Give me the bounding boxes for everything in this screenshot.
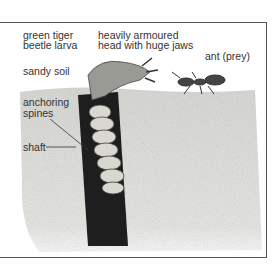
soil-label: sandy soil <box>23 66 70 77</box>
shaft-label: shaft <box>23 142 46 153</box>
spines-label-2: spines <box>23 108 53 119</box>
spines-label-1: anchoring <box>23 97 69 108</box>
ant <box>172 72 225 94</box>
larva-label-2: beetle larva <box>23 40 77 51</box>
head-label-2: head with huge jaws <box>98 40 193 51</box>
ant-label: ant (prey) <box>205 51 250 62</box>
sandy-soil <box>20 87 262 252</box>
